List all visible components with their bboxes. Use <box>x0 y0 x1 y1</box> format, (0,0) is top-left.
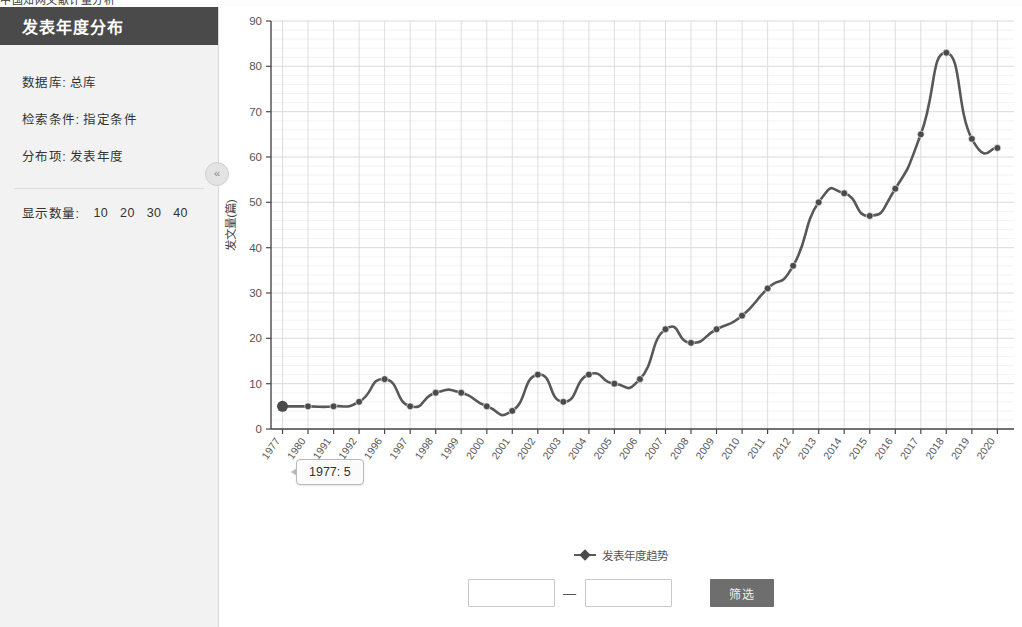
chart-legend: 发表年度趋势 <box>219 547 1022 563</box>
legend-label-trend[interactable]: 发表年度趋势 <box>602 547 668 563</box>
info-label-search-condition: 检索条件: <box>22 113 79 127</box>
display-count-option-10[interactable]: 10 <box>89 206 112 220</box>
display-count-option-30[interactable]: 30 <box>143 206 166 220</box>
display-count-row: 显示数量: 10 20 30 40 <box>0 189 218 222</box>
chart-tooltip: 1977: 5 <box>296 459 364 485</box>
svg-text:2018: 2018 <box>923 435 946 461</box>
svg-text:2017: 2017 <box>897 435 920 461</box>
svg-text:2007: 2007 <box>642 435 665 461</box>
svg-text:80: 80 <box>249 60 262 72</box>
svg-text:2016: 2016 <box>872 435 895 461</box>
display-count-options: 10 20 30 40 <box>89 206 192 220</box>
svg-text:50: 50 <box>249 196 262 208</box>
svg-text:2013: 2013 <box>795 435 818 461</box>
svg-text:70: 70 <box>249 106 262 118</box>
svg-text:1999: 1999 <box>438 435 461 461</box>
svg-text:30: 30 <box>249 287 262 299</box>
sidebar-content: 数据库: 总库 检索条件: 指定条件 分布项: 发表年度 显示数量: 10 20… <box>0 45 218 222</box>
svg-text:1998: 1998 <box>412 435 435 461</box>
svg-text:2003: 2003 <box>540 435 563 461</box>
svg-text:1996: 1996 <box>361 435 384 461</box>
chart-tooltip-text: 1977: 5 <box>309 465 351 479</box>
svg-text:1980: 1980 <box>284 435 307 461</box>
chart-panel: 0102030405060708090发文量(篇)197719801991199… <box>219 7 1022 627</box>
svg-text:1977: 1977 <box>259 435 282 461</box>
svg-text:1997: 1997 <box>387 435 410 461</box>
year-range-filter-bar: — 筛选 <box>219 579 1022 607</box>
info-row-search-condition: 检索条件: 指定条件 <box>0 100 218 137</box>
info-value-database: 总库 <box>70 76 97 90</box>
info-label-database: 数据库: <box>22 76 66 90</box>
page-title: 发表年度分布 <box>22 14 124 38</box>
year-range-start-input[interactable] <box>468 579 555 607</box>
sidebar-panel: 发表年度分布 数据库: 总库 检索条件: 指定条件 分布项: 发表年度 显示数量… <box>0 7 219 627</box>
svg-text:2006: 2006 <box>616 435 639 461</box>
svg-text:2009: 2009 <box>693 435 716 461</box>
svg-text:2004: 2004 <box>565 435 588 461</box>
info-row-database: 数据库: 总库 <box>0 63 218 100</box>
svg-text:2000: 2000 <box>463 435 486 461</box>
svg-text:90: 90 <box>249 15 262 27</box>
svg-text:1992: 1992 <box>336 435 359 461</box>
year-range-dash: — <box>555 586 585 601</box>
svg-text:2008: 2008 <box>667 435 690 461</box>
svg-text:2019: 2019 <box>948 435 971 461</box>
display-count-option-40[interactable]: 40 <box>169 206 192 220</box>
chevron-double-left-icon[interactable]: « <box>205 162 229 186</box>
svg-text:0: 0 <box>256 423 262 435</box>
svg-text:20: 20 <box>249 332 262 344</box>
svg-text:2020: 2020 <box>974 435 997 461</box>
svg-text:2001: 2001 <box>489 435 512 461</box>
year-range-end-input[interactable] <box>585 579 672 607</box>
svg-text:1991: 1991 <box>310 435 333 461</box>
svg-text:2010: 2010 <box>719 435 742 461</box>
info-label-distribution-item: 分布项: <box>22 150 66 164</box>
svg-text:2002: 2002 <box>514 435 537 461</box>
display-count-option-20[interactable]: 20 <box>116 206 139 220</box>
info-row-distribution-item: 分布项: 发表年度 <box>0 137 218 174</box>
analysis-page: 中国知网文献计量分析 发表年度分布 数据库: 总库 检索条件: 指定条件 分布项… <box>0 0 1022 627</box>
legend-marker-icon <box>574 550 596 560</box>
sidebar-title-bar: 发表年度分布 <box>0 7 218 45</box>
svg-text:发文量(篇): 发文量(篇) <box>224 199 237 251</box>
info-value-distribution-item: 发表年度 <box>70 150 124 164</box>
display-count-label: 显示数量: <box>22 203 79 222</box>
cut-off-header-label: 中国知网文献计量分析 <box>0 0 232 5</box>
info-value-search-condition: 指定条件 <box>83 113 137 127</box>
svg-text:2015: 2015 <box>846 435 869 461</box>
svg-text:2011: 2011 <box>744 435 767 461</box>
svg-text:2014: 2014 <box>821 435 844 461</box>
svg-text:10: 10 <box>249 378 262 390</box>
svg-text:60: 60 <box>249 151 262 163</box>
svg-text:2005: 2005 <box>591 435 614 461</box>
filter-button[interactable]: 筛选 <box>710 579 774 607</box>
svg-text:2012: 2012 <box>770 435 793 461</box>
svg-text:40: 40 <box>249 242 262 254</box>
